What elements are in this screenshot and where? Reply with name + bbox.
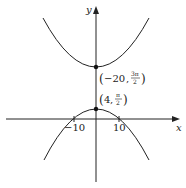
paren-close: ) [141,72,146,86]
tick-label-neg10: −10 [64,122,85,133]
comma: , [126,73,129,84]
lower-vertex-point [94,107,98,111]
lower-vertex-y-den: 2 [116,99,120,106]
x-axis-label: x [176,122,182,133]
upper-vertex-x: −20 [104,73,125,84]
paren-open: ( [99,72,104,86]
lower-vertex-label: ( 4 , π 2 ) [99,91,128,107]
paren-close: ) [123,93,128,107]
comma: , [110,94,113,105]
tick-label-10: 10 [113,122,126,133]
y-axis-arrow-icon [93,6,99,14]
parametric-graph: y x −10 10 ( −20 , 3π 2 ) ( 4 , π 2 ) [0,0,186,188]
upper-vertex-y-den: 2 [133,78,137,85]
upper-vertex-label: ( −20 , 3π 2 ) [99,70,146,86]
upper-vertex-point [94,65,98,69]
upper-vertex-y-num: 3π [131,70,139,77]
y-axis-label: y [85,4,92,15]
lower-vertex-y-num: π [116,91,120,98]
paren-open: ( [99,93,104,107]
